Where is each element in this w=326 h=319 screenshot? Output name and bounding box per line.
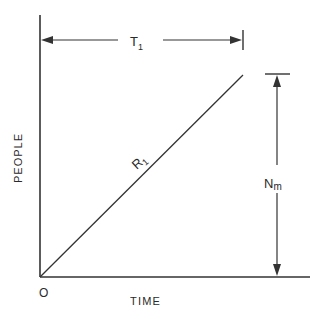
nm-up-arrow — [273, 75, 281, 165]
y-axis-label: PEOPLE — [12, 133, 24, 183]
t1-right-arrow — [163, 36, 242, 44]
nm-label: Nm — [264, 176, 282, 192]
nm-down-arrow — [273, 193, 281, 276]
origin-label: O — [39, 286, 48, 300]
growth-line — [40, 75, 243, 277]
diagram-canvas: T1 Nm R1 PEOPLE O TIME — [0, 0, 326, 319]
t1-label: T1 — [130, 34, 143, 52]
t1-left-arrow — [41, 36, 118, 44]
x-axis-label: TIME — [130, 295, 161, 307]
